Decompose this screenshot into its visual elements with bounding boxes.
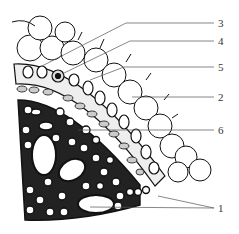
label-2: 2 <box>218 92 224 103</box>
label-6: 6 <box>218 125 224 136</box>
root-cross-section-diagram <box>0 0 239 234</box>
label-4: 4 <box>218 36 224 47</box>
label-5: 5 <box>218 62 224 73</box>
label-3: 3 <box>218 18 224 29</box>
label-1: 1 <box>218 203 224 214</box>
